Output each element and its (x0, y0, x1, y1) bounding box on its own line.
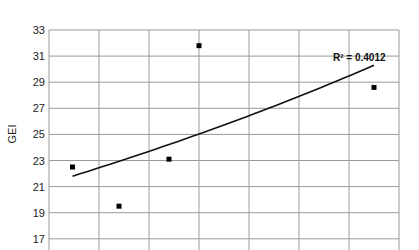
y-tick-label: 17 (33, 233, 45, 245)
y-axis-ticks: 171921232527293133 (33, 24, 45, 245)
y-axis-label: GEI (6, 125, 18, 144)
y-tick-label: 33 (33, 24, 45, 36)
y-tick-label: 21 (33, 181, 45, 193)
y-tick-label: 29 (33, 76, 45, 88)
grid (49, 30, 399, 250)
data-point (117, 204, 122, 209)
scatter-chart: 171921232527293133 GEI R² = 0.4012 (0, 0, 419, 250)
data-point (372, 85, 377, 90)
r-squared-label: R² = 0.4012 (333, 52, 386, 63)
y-tick-label: 27 (33, 102, 45, 114)
y-tick-label: 25 (33, 128, 45, 140)
data-point (70, 165, 75, 170)
data-point (167, 157, 172, 162)
y-tick-label: 23 (33, 155, 45, 167)
y-tick-label: 19 (33, 207, 45, 219)
data-point (197, 43, 202, 48)
y-tick-label: 31 (33, 50, 45, 62)
